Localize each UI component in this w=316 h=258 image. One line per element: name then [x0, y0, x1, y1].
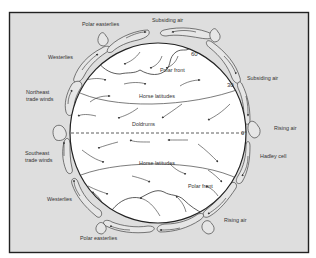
label-rising-air-equator: Rising air [274, 125, 297, 131]
label-northeast-trade-winds-2: trade winds [26, 96, 54, 102]
label-southeast-trade-winds-2: trade winds [25, 157, 53, 163]
latitude-60: 60 [191, 51, 198, 57]
label-subsiding-air-top: Subsiding air [152, 17, 183, 23]
label-northeast-trade-winds-1: Northeast [26, 89, 50, 95]
label-subsiding-air-right: Subsiding air [247, 75, 278, 81]
label-westerlies-south: Westerlies [47, 196, 72, 202]
label-horse-latitudes-south: Horse latitudes [139, 160, 175, 166]
label-southeast-trade-winds-1: Southeast [25, 150, 50, 156]
label-polar-easterlies-north: Polar easterlies [82, 21, 119, 27]
label-westerlies-north: Westerlies [48, 54, 73, 60]
latitude-0: 0° [241, 130, 247, 136]
label-horse-latitudes-north: Horse latitudes [139, 93, 175, 99]
label-polar-front-south: Polar front [188, 183, 213, 189]
label-doldrums: Doldrums [132, 121, 155, 127]
label-hadley-cell: Hadley cell [260, 153, 286, 159]
latitude-30: 30 [227, 82, 234, 88]
global-wind-circulation-diagram: Polar easterlies Subsiding air Westerlie… [0, 0, 316, 258]
label-polar-easterlies-south: Polar easterlies [80, 235, 117, 241]
label-polar-front-north: Polar front [160, 67, 185, 73]
label-rising-air-bottom: Rising air [224, 217, 247, 223]
